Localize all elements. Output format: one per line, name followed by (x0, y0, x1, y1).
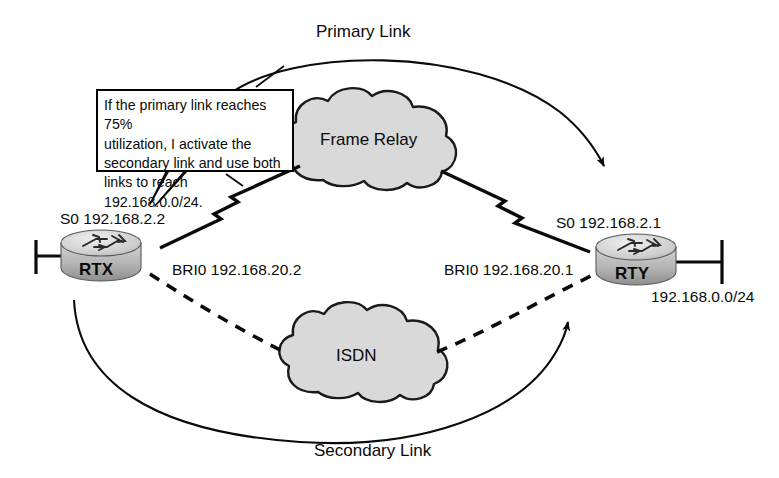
primary-link-label: Primary Link (316, 21, 410, 42)
callout-text: If the primary link reaches 75%utilizati… (104, 96, 290, 212)
rtx-bri-interface-label: BRI0 192.168.20.2 (172, 260, 301, 279)
callout-line-2: utilization, I activate the (104, 136, 251, 152)
rtx-serial-interface-label: S0 192.168.2.2 (60, 209, 165, 228)
network-diagram: If the primary link reaches 75%utilizati… (0, 0, 779, 478)
bri-link-rtx-isdn (150, 274, 288, 354)
lan-network-label: 192.168.0.0/24 (651, 287, 754, 306)
bri-link-isdn-rty (437, 274, 595, 352)
router-rty-label: RTY (615, 263, 649, 284)
rty-serial-interface-label: S0 192.168.2.1 (556, 213, 661, 232)
isdn-cloud-label: ISDN (336, 345, 377, 366)
serial-link-framerelay-rty (441, 171, 590, 252)
callout-line-4: links to reach 192.168.0.0/24. (104, 174, 203, 209)
rty-lan-stub (676, 240, 722, 284)
frame-relay-cloud-label: Frame Relay (320, 129, 417, 150)
callout-line-3: secondary link and use both (104, 155, 281, 171)
rty-bri-interface-label: BRI0 192.168.20.1 (444, 260, 573, 279)
router-rtx-label: RTX (79, 259, 113, 280)
callout-line-1: If the primary link reaches 75% (104, 97, 266, 132)
diagram-vectors (0, 0, 779, 478)
secondary-link-label: Secondary Link (314, 440, 431, 461)
